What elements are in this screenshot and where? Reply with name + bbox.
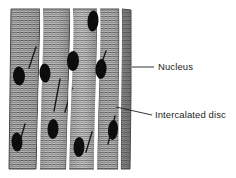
cardiac-muscle-figure: Nucleus Intercalated disc <box>0 0 236 178</box>
label-intercalated-disc: Intercalated disc <box>155 110 226 120</box>
label-nucleus: Nucleus <box>158 62 193 72</box>
fiber-gap <box>120 9 121 169</box>
histology-illustration <box>0 0 236 178</box>
